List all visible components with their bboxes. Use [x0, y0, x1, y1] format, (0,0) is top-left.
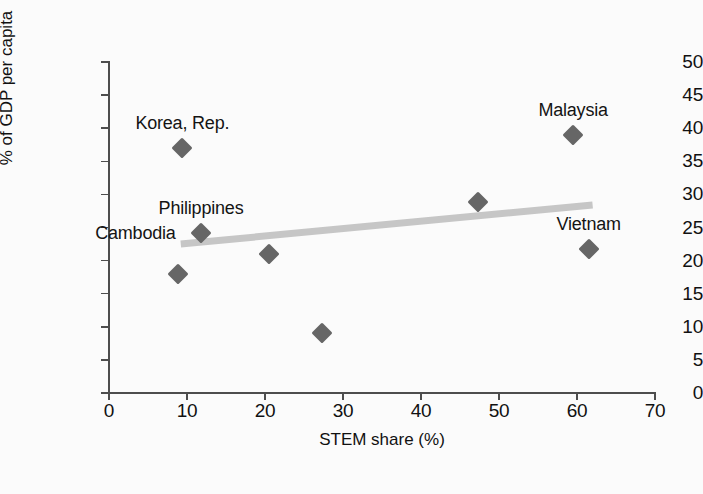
x-tick-label: 40 [391, 400, 451, 422]
x-tick-label: 20 [235, 400, 295, 422]
x-tick-mark [498, 393, 500, 400]
y-tick-mark [101, 161, 108, 163]
y-tick-mark [101, 326, 108, 328]
data-point-label: Korea, Rep. [135, 113, 229, 134]
y-axis-label: % of GDP per capita [0, 0, 17, 228]
x-tick-mark [420, 393, 422, 400]
data-point-label: Vietnam [557, 214, 621, 235]
x-tick-mark [108, 393, 110, 400]
y-tick-mark [101, 94, 108, 96]
y-tick-mark [101, 359, 108, 361]
scatter-chart-figure: 05101520253035404550 010203040506070 % o… [0, 0, 703, 494]
x-tick-mark [264, 393, 266, 400]
x-tick-mark [342, 393, 344, 400]
y-tick-mark [101, 392, 108, 394]
x-tick-mark [186, 393, 188, 400]
x-tick-mark [576, 393, 578, 400]
x-axis-label: STEM share (%) [109, 430, 655, 450]
y-tick-mark [101, 194, 108, 196]
y-tick-mark [101, 293, 108, 295]
x-tick-label: 70 [625, 400, 685, 422]
x-tick-label: 50 [469, 400, 529, 422]
data-point-label: Malaysia [538, 100, 607, 121]
x-tick-label: 60 [547, 400, 607, 422]
y-tick-mark [101, 260, 108, 262]
x-tick-label: 10 [157, 400, 217, 422]
data-point-label: Philippines [159, 198, 244, 219]
x-tick-label: 0 [79, 400, 139, 422]
x-tick-mark [654, 393, 656, 400]
data-point-label: Cambodia [95, 223, 175, 244]
y-tick-mark [101, 127, 108, 129]
x-tick-label: 30 [313, 400, 373, 422]
y-tick-mark [101, 61, 108, 63]
